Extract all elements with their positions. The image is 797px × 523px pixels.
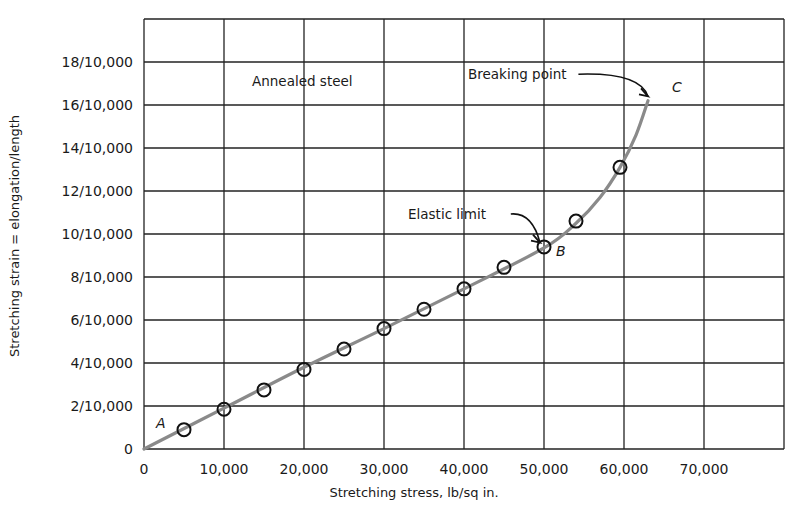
y-tick-label: 0 (124, 441, 133, 457)
annotation-label: Elastic limit (408, 206, 486, 222)
point-labels: ABC (155, 79, 682, 430)
annotations: Annealed steelElastic limitBreaking poin… (252, 66, 648, 242)
x-tick-label: 60,000 (600, 461, 649, 477)
chart-canvas: 02/10,0004/10,0006/10,0008/10,00010/10,0… (0, 0, 797, 523)
x-axis-ticks: 010,00020,00030,00040,00050,00060,00070,… (140, 461, 729, 477)
data-points (178, 161, 627, 436)
y-tick-label: 10/10,000 (61, 226, 133, 242)
y-tick-label: 16/10,000 (61, 97, 133, 113)
point-label: A (155, 415, 166, 431)
y-tick-label: 12/10,000 (61, 183, 133, 199)
x-tick-label: 30,000 (360, 461, 409, 477)
annotation-label: Annealed steel (252, 73, 353, 89)
grid (144, 19, 784, 449)
stress-strain-chart: 02/10,0004/10,0006/10,0008/10,00010/10,0… (0, 0, 797, 523)
point-label: C (672, 79, 682, 95)
x-tick-label: 20,000 (280, 461, 329, 477)
x-tick-label: 0 (140, 461, 149, 477)
y-axis-ticks: 02/10,0004/10,0006/10,0008/10,00010/10,0… (61, 54, 133, 457)
y-axis-title: Stretching strain = elongation/length (7, 115, 22, 357)
fitted-curve (144, 101, 648, 449)
x-tick-label: 10,000 (200, 461, 249, 477)
y-tick-label: 18/10,000 (61, 54, 133, 70)
x-tick-label: 50,000 (520, 461, 569, 477)
y-tick-label: 8/10,000 (70, 269, 133, 285)
x-axis-title: Stretching stress, lb/sq in. (329, 485, 498, 500)
y-tick-label: 4/10,000 (70, 355, 133, 371)
strain-curve (144, 101, 648, 449)
y-tick-label: 14/10,000 (61, 140, 133, 156)
annotation-label: Breaking point (468, 66, 567, 82)
annotation-arrow (578, 74, 648, 96)
point-label: B (556, 243, 566, 259)
x-tick-label: 40,000 (440, 461, 489, 477)
y-tick-label: 2/10,000 (70, 398, 133, 414)
x-tick-label: 70,000 (680, 461, 729, 477)
y-tick-label: 6/10,000 (70, 312, 133, 328)
